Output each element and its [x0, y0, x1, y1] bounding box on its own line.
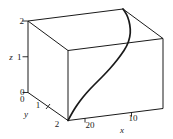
space-curve	[68, 9, 130, 121]
box-edge-top-back	[28, 9, 123, 21]
x-axis-label: x	[119, 125, 124, 135]
y-tick-2-label: 2	[55, 119, 60, 129]
x-tick-20-label: 20	[86, 120, 96, 130]
box-edge-top-front	[68, 39, 163, 51]
y-tick-0-label: 0	[20, 94, 25, 104]
plot-canvas: 2 1 0 z 0 1 2 y 20 10 x	[0, 0, 173, 139]
y-tick-1-mark	[46, 104, 50, 109]
z-tick-1-label: 1	[17, 52, 22, 62]
z-axis-label: z	[8, 52, 13, 62]
box-edge-x-axis	[68, 109, 163, 121]
plot-figure: 2 1 0 z 0 1 2 y 20 10 x	[0, 0, 173, 139]
x-tick-10-label: 10	[129, 113, 139, 123]
box-edge-top-left	[28, 21, 68, 51]
bounding-box	[28, 9, 163, 121]
y-axis-label: y	[23, 109, 28, 119]
z-tick-2-label: 2	[20, 16, 25, 26]
y-tick-1-label: 1	[36, 100, 41, 110]
